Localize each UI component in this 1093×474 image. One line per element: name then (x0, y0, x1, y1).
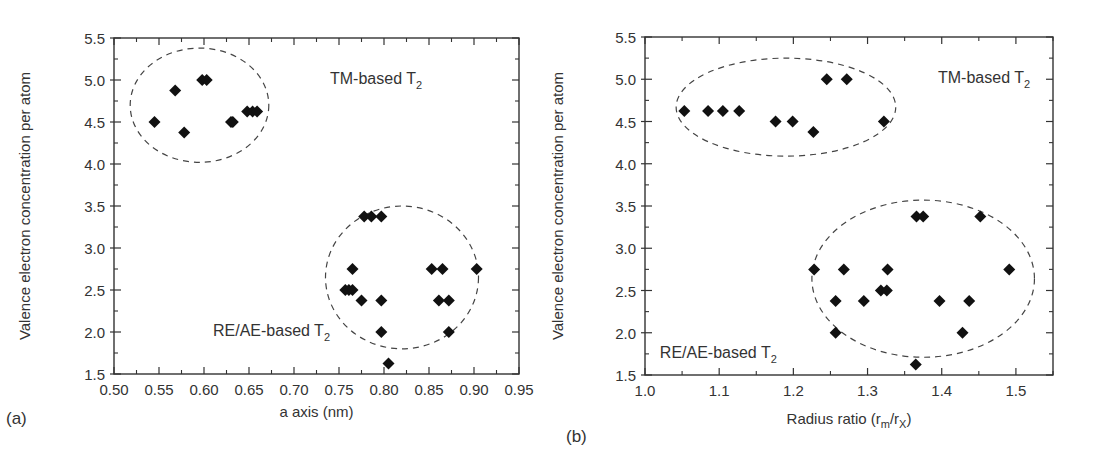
x-tick-label: 0.70 (279, 381, 308, 398)
y-tick-label: 2.0 (615, 325, 636, 342)
y-axis-title: Valence electron concentration per atom (16, 72, 33, 340)
panel-label: (a) (6, 409, 27, 428)
data-point-diamond (1003, 263, 1015, 275)
data-point-diamond (808, 263, 820, 275)
y-tick-label: 1.5 (84, 366, 105, 383)
y-tick-label: 2.0 (84, 324, 105, 341)
cluster-annotation: RE/AE-based T2 (660, 344, 777, 365)
x-tick-label: 1.4 (931, 382, 952, 399)
data-point-diamond (733, 105, 745, 117)
y-axis-title: Valence electron concentration per atom (549, 72, 566, 340)
data-point-diamond (807, 126, 819, 138)
data-point-diamond (963, 295, 975, 307)
data-point-diamond (375, 295, 387, 307)
figure: 0.500.550.600.650.700.750.800.850.900.95… (0, 0, 1093, 474)
y-tick-label: 4.5 (84, 114, 105, 131)
x-tick-label: 0.80 (369, 381, 398, 398)
y-tick-label: 3.0 (84, 240, 105, 257)
y-tick-label: 5.5 (615, 29, 636, 46)
data-point-diamond (437, 263, 449, 275)
y-tick-label: 1.5 (615, 367, 636, 384)
data-point-diamond (356, 295, 368, 307)
scatter-panel-b: 1.01.11.21.31.41.51.52.02.53.03.54.04.55… (549, 29, 1053, 446)
y-tick-label: 3.5 (615, 198, 636, 215)
data-point-diamond (227, 116, 239, 128)
y-tick-label: 5.0 (84, 72, 105, 89)
x-tick-label: 0.95 (504, 381, 533, 398)
y-tick-label: 2.5 (615, 283, 636, 300)
x-tick-label: 0.60 (189, 381, 218, 398)
data-point-diamond (787, 116, 799, 128)
y-tick-label: 3.0 (615, 240, 636, 257)
y-tick-label: 4.5 (615, 114, 636, 131)
data-point-diamond (375, 211, 387, 223)
data-point-diamond (882, 263, 894, 275)
data-point-diamond (830, 295, 842, 307)
x-tick-label: 1.3 (857, 382, 878, 399)
data-point-diamond (375, 326, 387, 338)
cluster-ellipse (326, 206, 479, 349)
cluster-annotation: RE/AE-based T2 (213, 322, 330, 343)
cluster-ellipse (812, 200, 1035, 357)
data-point-diamond (974, 211, 986, 223)
scatter-panel-a: 0.500.550.600.650.700.750.800.850.900.95… (6, 30, 534, 428)
data-point-diamond (956, 327, 968, 339)
x-tick-label: 0.65 (234, 381, 263, 398)
data-point-diamond (443, 295, 455, 307)
data-point-diamond (830, 327, 842, 339)
data-point-diamond (149, 116, 161, 128)
data-point-diamond (770, 116, 782, 128)
x-tick-label: 0.85 (414, 381, 443, 398)
x-tick-label: 0.50 (99, 381, 128, 398)
y-tick-label: 2.5 (84, 282, 105, 299)
data-point-diamond (169, 85, 181, 97)
data-point-diamond (917, 211, 929, 223)
x-tick-label: 1.5 (1005, 382, 1026, 399)
x-tick-label: 1.0 (635, 382, 656, 399)
plot-frame (645, 37, 1053, 375)
data-point-diamond (821, 73, 833, 85)
cluster-annotation: TM-based T2 (938, 69, 1030, 90)
y-tick-label: 4.0 (615, 156, 636, 173)
data-point-diamond (838, 263, 850, 275)
cluster-ellipse (130, 48, 269, 162)
data-point-diamond (678, 105, 690, 117)
cluster-annotation: TM-based T2 (330, 70, 422, 91)
data-point-diamond (841, 73, 853, 85)
data-point-diamond (471, 263, 483, 275)
x-tick-label: 0.75 (324, 381, 353, 398)
y-tick-label: 5.5 (84, 30, 105, 47)
x-tick-label: 0.90 (459, 381, 488, 398)
data-point-diamond (910, 358, 922, 370)
y-tick-label: 5.0 (615, 71, 636, 88)
data-point-diamond (717, 105, 729, 117)
y-tick-label: 3.5 (84, 198, 105, 215)
y-tick-label: 4.0 (84, 156, 105, 173)
data-point-diamond (858, 295, 870, 307)
data-point-diamond (934, 295, 946, 307)
x-axis-title: a axis (nm) (279, 403, 353, 420)
x-axis-title: Radius ratio (rm/rX) (787, 410, 912, 430)
data-point-diamond (347, 263, 359, 275)
x-tick-label: 0.55 (144, 381, 173, 398)
panel-label: (b) (566, 427, 587, 446)
data-point-diamond (878, 116, 890, 128)
x-tick-label: 1.1 (709, 382, 730, 399)
data-point-diamond (426, 263, 438, 275)
data-point-diamond (702, 105, 714, 117)
data-point-diamond (178, 127, 190, 139)
x-tick-label: 1.2 (783, 382, 804, 399)
